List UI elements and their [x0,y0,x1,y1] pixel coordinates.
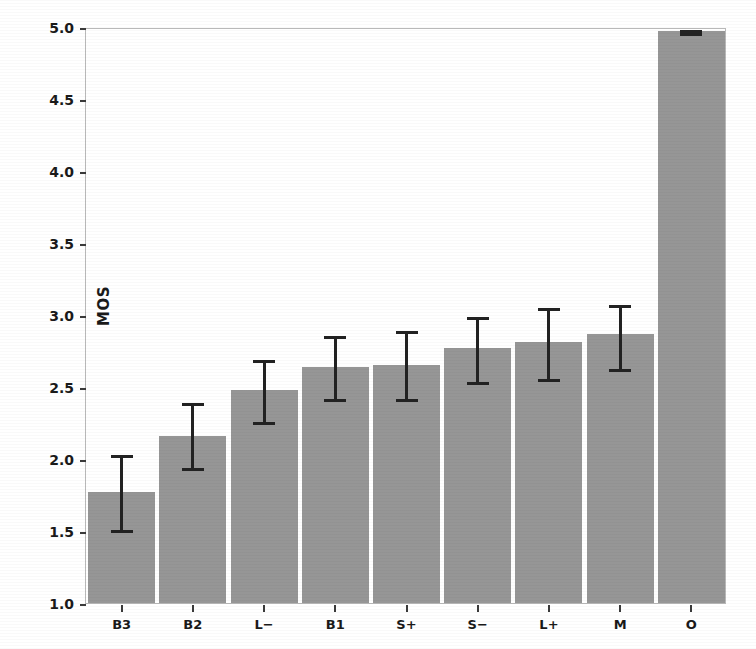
y-tick-mark [80,100,86,102]
bar-O [658,31,725,603]
x-tick-label: B1 [295,617,375,632]
y-tick-mark [80,388,86,390]
y-tick-label: 1.5 [28,524,74,540]
errorbar-cap-top [396,331,418,334]
y-tick-label: 3.5 [28,236,74,252]
y-tick-mark [80,244,86,246]
y-tick-label: 4.5 [28,92,74,108]
y-tick-label: 2.0 [28,452,74,468]
errorbar-B2 [159,403,226,471]
x-tick-label: B3 [82,617,162,632]
errorbar-S− [444,317,511,385]
y-tick-mark [80,316,86,318]
errorbar-stem [263,360,266,425]
errorbar-stem [405,331,408,402]
x-tick-mark [619,605,621,612]
errorbar-M [587,305,654,371]
errorbar-stem [619,305,622,371]
x-tick-label: L− [224,617,304,632]
x-tick-mark [690,605,692,612]
bar-B1 [302,367,369,603]
x-tick-mark [121,605,123,612]
errorbar-B1 [302,336,369,402]
errorbar-cap-bottom [253,422,275,425]
x-tick-label: O [651,617,731,632]
errorbar-L− [231,360,298,425]
y-tick-mark [80,532,86,534]
errorbar-cap-bottom [680,33,702,36]
x-tick-label: M [580,617,660,632]
errorbar-stem [334,336,337,402]
errorbar-cap-bottom [182,468,204,471]
y-tick-label: 5.0 [28,20,74,36]
y-tick-mark [80,460,86,462]
x-tick-mark [477,605,479,612]
errorbar-cap-bottom [467,382,489,385]
errorbar-cap-bottom [111,530,133,533]
x-tick-label: S− [438,617,518,632]
errorbar-L+ [515,308,582,381]
errorbar-stem [547,308,550,381]
y-axis-title: MOS [95,246,113,366]
errorbar-cap-top [467,317,489,320]
errorbar-cap-bottom [609,369,631,372]
errorbar-cap-top [324,336,346,339]
y-tick-label: 3.0 [28,308,74,324]
errorbar-O [658,30,725,36]
y-tick-label: 2.5 [28,380,74,396]
y-tick-mark [80,604,86,606]
errorbar-stem [191,403,194,471]
errorbar-cap-bottom [396,399,418,402]
y-tick-mark [80,172,86,174]
x-tick-label: S+ [367,617,447,632]
x-tick-mark [406,605,408,612]
errorbar-S+ [373,331,440,402]
x-tick-mark [548,605,550,612]
errorbar-cap-top [111,455,133,458]
x-tick-label: B2 [153,617,233,632]
x-tick-mark [263,605,265,612]
y-tick-label: 1.0 [28,596,74,612]
errorbar-cap-top [609,305,631,308]
plot-area: MOS 1.01.52.02.53.03.54.04.55.0 B3B2L−B1… [85,28,726,604]
y-tick-label: 4.0 [28,164,74,180]
errorbar-stem [120,455,123,533]
bar-S− [444,348,511,603]
errorbar-cap-bottom [324,399,346,402]
errorbar-cap-top [253,360,275,363]
errorbar-B3 [88,455,155,533]
x-tick-mark [192,605,194,612]
errorbar-cap-top [182,403,204,406]
mos-bar-chart-figure: MOS 1.01.52.02.53.03.54.04.55.0 B3B2L−B1… [0,0,756,649]
errorbar-stem [476,317,479,385]
errorbar-cap-top [538,308,560,311]
x-tick-mark [334,605,336,612]
errorbar-cap-bottom [538,379,560,382]
bar-M [587,334,654,603]
y-tick-mark [80,28,86,30]
x-tick-label: L+ [509,617,589,632]
